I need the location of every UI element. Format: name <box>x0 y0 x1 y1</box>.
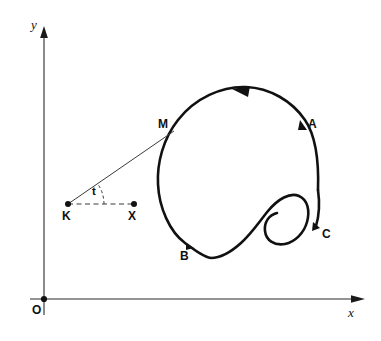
point-b-label: B <box>180 250 189 262</box>
x-axis-arrowhead <box>351 295 365 303</box>
point-x-label: X <box>128 210 136 222</box>
parametric-curve <box>158 87 318 258</box>
figure-canvas <box>0 0 381 341</box>
x-axis-label: x <box>348 306 354 319</box>
origin-label: O <box>32 304 41 316</box>
figure-root: y x O K X M A B C t <box>0 0 381 341</box>
point-a-label: A <box>308 118 317 130</box>
point-c-label: C <box>322 228 331 240</box>
point-k-dot <box>65 201 71 207</box>
point-k-label: K <box>62 210 71 222</box>
origin-dot <box>41 296 47 302</box>
y-axis-arrowhead <box>40 26 48 38</box>
angle-t-arc <box>98 184 105 205</box>
angle-t-label: t <box>92 186 96 198</box>
curve-group <box>158 87 318 258</box>
point-m-label: M <box>158 118 168 130</box>
axes-group <box>30 26 365 315</box>
curve-tail-to-c-group <box>316 190 319 226</box>
curve-tail-to-c <box>316 190 319 226</box>
point-x-dot <box>131 201 137 207</box>
y-axis-label: y <box>31 18 37 31</box>
